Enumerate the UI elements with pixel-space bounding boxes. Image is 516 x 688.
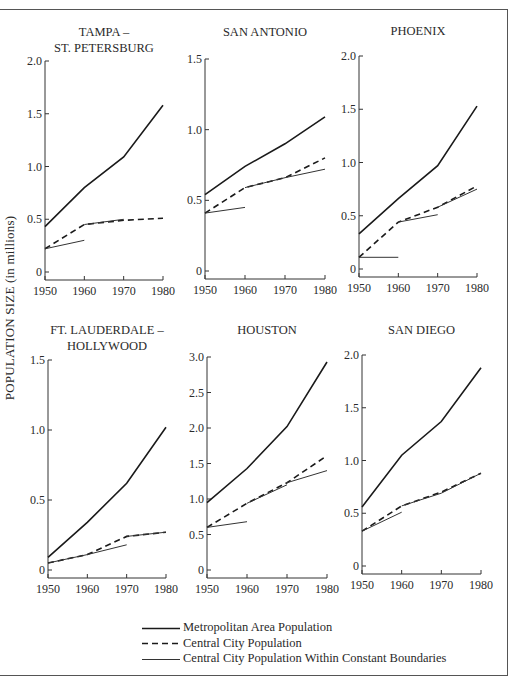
x-tick-label: 1980: [151, 284, 175, 298]
x-tick-label: 1960: [386, 281, 410, 295]
y-tick-label: 1.5: [187, 52, 202, 66]
chart-phoenix: PHOENIX00.51.01.52.01950196019701980: [341, 24, 489, 295]
x-tick-label: 1950: [36, 582, 60, 596]
chart-title: SAN DIEGO: [388, 323, 455, 337]
x-tick-label: 1970: [275, 582, 299, 596]
series-line-solid-thick: [207, 362, 327, 503]
legend-label: Central City Population Within Constant …: [183, 651, 447, 667]
chart-san-antonio: SAN ANTONIO00.51.01.51950196019701980: [187, 25, 337, 297]
series-line-solid-thin: [45, 240, 84, 249]
y-tick-label: 1.5: [344, 401, 359, 415]
chart-houston: HOUSTON00.51.01.52.02.53.019501960197019…: [189, 323, 339, 596]
y-tick-label: 0: [353, 559, 359, 573]
series-line-solid-thin: [438, 189, 477, 207]
y-tick-label: 2.0: [27, 54, 42, 68]
y-tick-label: 1.0: [187, 123, 202, 137]
y-tick-label: 0.5: [189, 528, 204, 542]
y-tick-label: 3.0: [189, 350, 204, 364]
y-tick-label: 1.0: [344, 454, 359, 468]
solid-thin-line-icon: [142, 654, 180, 664]
x-tick-label: 1980: [313, 283, 337, 297]
series-line-solid-thin: [127, 532, 166, 536]
series-line-solid-thick: [45, 105, 163, 226]
chart-title: TAMPA –: [79, 25, 130, 39]
series-line-dashed: [45, 218, 163, 249]
x-tick-label: 1950: [33, 284, 57, 298]
y-tick-label: 0: [39, 563, 45, 577]
x-tick-label: 1960: [233, 283, 257, 297]
x-tick-label: 1950: [347, 281, 371, 295]
x-tick-label: 1980: [315, 582, 339, 596]
x-tick-label: 1970: [429, 578, 453, 592]
x-tick-label: 1950: [350, 578, 374, 592]
dashed-line-icon: [142, 638, 180, 648]
y-tick-label: 1.5: [189, 457, 204, 471]
y-tick-label: 0.5: [344, 506, 359, 520]
x-tick-label: 1960: [235, 582, 259, 596]
series-line-dashed: [359, 186, 477, 257]
y-tick-label: 1.5: [27, 107, 42, 121]
legend-item-constant-boundaries: Central City Population Within Constant …: [142, 651, 447, 667]
y-tick-label: 0.5: [187, 193, 202, 207]
chart-title: HOLLYWOOD: [67, 339, 147, 353]
series-line-solid-thick: [48, 427, 166, 557]
series-line-solid-thin: [205, 207, 245, 213]
series-line-solid-thin: [362, 512, 402, 531]
legend: Metropolitan Area Population Central Cit…: [142, 620, 447, 667]
legend-label: Central City Population: [183, 636, 302, 652]
series-line-solid-thin: [84, 219, 123, 224]
y-tick-label: 2.0: [341, 49, 356, 63]
y-tick-label: 2.5: [189, 386, 204, 400]
x-tick-label: 1980: [154, 582, 178, 596]
x-tick-label: 1980: [469, 578, 493, 592]
series-line-solid-thin: [207, 522, 247, 528]
series-line-solid-thin: [398, 215, 437, 222]
chart-title: FT. LAUDERDALE –: [50, 323, 164, 337]
x-tick-label: 1970: [112, 284, 136, 298]
y-tick-label: 1.0: [30, 423, 45, 437]
chart-san-diego: SAN DIEGO00.51.01.52.01950196019701980: [344, 323, 493, 592]
y-tick-label: 1.0: [27, 160, 42, 174]
x-tick-label: 1960: [390, 578, 414, 592]
x-tick-label: 1950: [195, 582, 219, 596]
series-line-solid-thick: [362, 368, 481, 507]
x-tick-label: 1970: [115, 582, 139, 596]
x-tick-label: 1960: [75, 582, 99, 596]
x-tick-label: 1980: [465, 281, 489, 295]
y-tick-label: 2.0: [344, 348, 359, 362]
y-tick-label: 0.5: [30, 493, 45, 507]
y-tick-label: 0: [36, 265, 42, 279]
x-tick-label: 1970: [273, 283, 297, 297]
chart-title: HOUSTON: [237, 323, 297, 337]
chart-ft-lauderdale-hollywood: FT. LAUDERDALE –HOLLYWOOD00.51.01.519501…: [30, 323, 178, 596]
legend-label: Metropolitan Area Population: [183, 620, 332, 636]
y-tick-label: 0: [198, 563, 204, 577]
y-tick-label: 0.5: [27, 212, 42, 226]
chart-title: SAN ANTONIO: [223, 25, 307, 39]
series-line-dashed: [205, 158, 325, 213]
series-line-solid-thin: [287, 471, 327, 483]
chart-title: PHOENIX: [391, 24, 446, 38]
series-line-dashed: [207, 456, 327, 528]
chart-tampa-st-petersburg: TAMPA –ST. PETERSBURG00.51.01.52.0195019…: [27, 25, 175, 298]
series-line-dashed: [48, 532, 166, 563]
charts-canvas: TAMPA –ST. PETERSBURG00.51.01.52.0195019…: [0, 0, 516, 688]
y-tick-label: 0: [350, 262, 356, 276]
legend-item-central-city: Central City Population: [142, 636, 447, 652]
x-tick-label: 1950: [193, 283, 217, 297]
x-tick-label: 1970: [426, 281, 450, 295]
y-tick-label: 1.0: [341, 156, 356, 170]
chart-title: ST. PETERSBURG: [54, 41, 154, 55]
y-tick-label: 1.5: [30, 353, 45, 367]
solid-thick-line-icon: [142, 623, 180, 633]
y-tick-label: 0.5: [341, 209, 356, 223]
y-tick-label: 0: [196, 264, 202, 278]
series-line-solid-thin: [245, 169, 325, 187]
legend-item-metro: Metropolitan Area Population: [142, 620, 447, 636]
y-tick-label: 1.5: [341, 102, 356, 116]
series-line-solid-thin: [247, 485, 287, 504]
x-tick-label: 1960: [72, 284, 96, 298]
y-tick-label: 2.0: [189, 421, 204, 435]
y-tick-label: 1.0: [189, 492, 204, 506]
